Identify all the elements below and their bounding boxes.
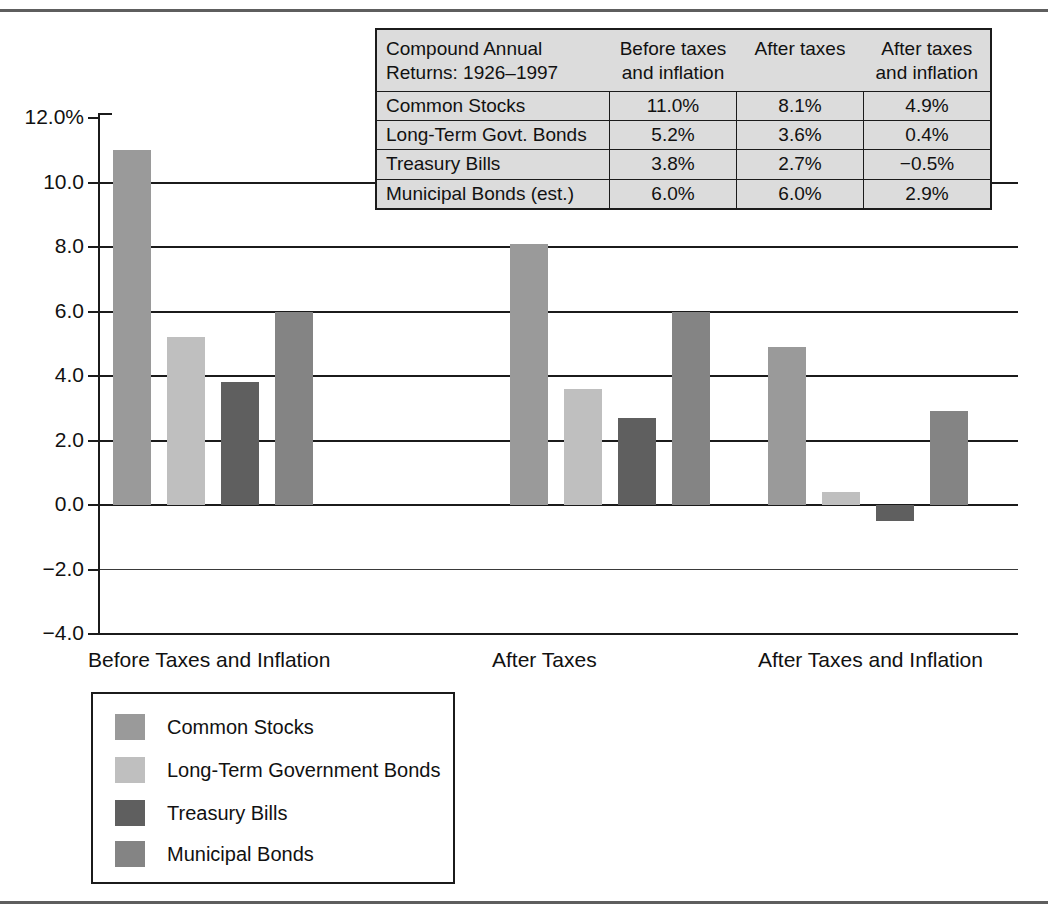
legend-swatch-icon xyxy=(115,714,145,740)
table-row: Treasury Bills3.8%2.7%−0.5% xyxy=(376,150,991,179)
table-row: Long-Term Govt. Bonds5.2%3.6%0.4% xyxy=(376,120,991,149)
legend-item: Long-Term Government Bonds xyxy=(115,755,440,785)
table-cell-value: 8.1% xyxy=(737,91,864,120)
table-header-col-0: Before taxes and inflation xyxy=(610,29,737,91)
table-header-row: Compound Annual Returns: 1926–1997 Befor… xyxy=(376,29,991,91)
y-axis-label-4: 4.0 xyxy=(0,363,84,387)
bar xyxy=(564,389,602,505)
table-cell-value: 4.9% xyxy=(864,91,992,120)
returns-table-body: Common Stocks11.0%8.1%4.9%Long-Term Govt… xyxy=(376,91,991,209)
legend-label: Municipal Bonds xyxy=(167,843,314,866)
table-cell-label: Common Stocks xyxy=(376,91,610,120)
legend-item: Municipal Bonds xyxy=(115,839,314,869)
legend-swatch-icon xyxy=(115,841,145,867)
table-cell-value: −0.5% xyxy=(864,150,992,179)
chart-legend: Common StocksLong-Term Government BondsT… xyxy=(91,692,455,884)
table-cell-value: 2.7% xyxy=(737,150,864,179)
gridline-6 xyxy=(98,311,1018,313)
y-axis-label-0: 12.0% xyxy=(0,105,84,129)
legend-label: Long-Term Government Bonds xyxy=(167,759,440,782)
bar xyxy=(930,411,968,505)
group-label-0: Before Taxes and Inflation xyxy=(88,648,330,672)
legend-label: Treasury Bills xyxy=(167,802,287,825)
table-header-col-2: After taxes and inflation xyxy=(864,29,992,91)
table-cell-value: 11.0% xyxy=(610,91,737,120)
bar xyxy=(275,312,313,506)
y-axis-label-3: 6.0 xyxy=(0,299,84,323)
returns-table: Compound Annual Returns: 1926–1997 Befor… xyxy=(375,28,992,210)
table-row: Common Stocks11.0%8.1%4.9% xyxy=(376,91,991,120)
legend-item: Common Stocks xyxy=(115,712,314,742)
returns-table-header: Compound Annual Returns: 1926–1997 Befor… xyxy=(376,29,991,91)
table-header-corner: Compound Annual Returns: 1926–1997 xyxy=(376,29,610,91)
table-cell-value: 2.9% xyxy=(864,179,992,209)
y-axis-label-5: 2.0 xyxy=(0,428,84,452)
bar xyxy=(768,347,806,505)
table-row: Municipal Bonds (est.)6.0%6.0%2.9% xyxy=(376,179,991,209)
table-header-col-1: After taxes xyxy=(737,29,864,91)
bar xyxy=(510,244,548,505)
bar xyxy=(876,505,914,521)
bar xyxy=(167,337,205,505)
legend-label: Common Stocks xyxy=(167,716,314,739)
table-cell-value: 3.8% xyxy=(610,150,737,179)
y-axis-label-1: 10.0 xyxy=(0,170,84,194)
bar xyxy=(672,312,710,506)
table-cell-value: 3.6% xyxy=(737,120,864,149)
y-axis-line xyxy=(98,113,100,635)
gridline-4 xyxy=(98,375,1018,377)
bar xyxy=(618,418,656,505)
table-cell-value: 0.4% xyxy=(864,120,992,149)
legend-item: Treasury Bills xyxy=(115,798,287,828)
table-cell-label: Treasury Bills xyxy=(376,150,610,179)
x-axis-line xyxy=(98,633,1018,635)
group-label-2: After Taxes and Inflation xyxy=(758,648,983,672)
legend-swatch-icon xyxy=(115,757,145,783)
y-axis-label-2: 8.0 xyxy=(0,234,84,258)
group-label-1: After Taxes xyxy=(492,648,597,672)
table-cell-value: 5.2% xyxy=(610,120,737,149)
y-axis-label-6: 0.0 xyxy=(0,492,84,516)
bar xyxy=(221,382,259,505)
table-cell-value: 6.0% xyxy=(737,179,864,209)
y-axis-label-8: −4.0 xyxy=(0,621,84,645)
bar xyxy=(822,492,860,505)
figure-compound-annual-returns: 12.0%10.08.06.04.02.00.0−2.0−4.0 Before … xyxy=(0,0,1048,916)
legend-swatch-icon xyxy=(115,800,145,826)
gridline-8 xyxy=(98,246,1018,248)
y-axis-label-7: −2.0 xyxy=(0,557,84,581)
table-cell-label: Municipal Bonds (est.) xyxy=(376,179,610,209)
table-cell-value: 6.0% xyxy=(610,179,737,209)
gridline--2 xyxy=(98,569,1018,570)
y-axis-top-cap xyxy=(98,113,112,115)
bar xyxy=(113,150,151,505)
table-cell-label: Long-Term Govt. Bonds xyxy=(376,120,610,149)
